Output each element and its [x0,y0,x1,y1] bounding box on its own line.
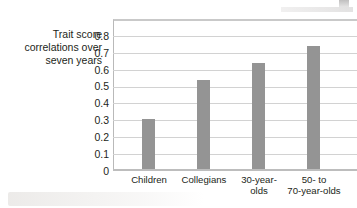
bar-collegians [197,80,210,171]
y-tick-label-0.5: 0.5 [85,81,109,92]
gridline-0.5 [113,87,357,88]
y-tick-label-0: 0 [85,166,109,177]
bar-chart-figure: Trait score correlations over seven year… [0,0,357,208]
plot-area [113,19,357,171]
gridline-0.4 [113,103,357,104]
gridline-0.7 [113,53,357,54]
bar-children [142,119,155,171]
y-tick-label-0.2: 0.2 [85,132,109,143]
scan-artifact-top-right [339,0,349,12]
scan-artifact-top-band [281,7,353,12]
bar-50-to-70-year-olds [307,46,320,171]
y-tick-label-0.4: 0.4 [85,98,109,109]
x-axis-tick-labels: Children Collegians 30-year- olds 50- to… [113,174,357,206]
bar-30-year-olds [252,63,265,171]
y-tick-label-0.1: 0.1 [85,149,109,160]
y-axis-tick-labels: 0.8 0.7 0.6 0.5 0.4 0.3 0.2 0.1 0 [84,19,109,171]
x-axis-baseline [113,169,357,171]
y-tick-label-0.3: 0.3 [85,115,109,126]
x-label-50-to-70-year-olds: 50- to 70-year-olds [274,174,354,197]
y-tick-label-0.6: 0.6 [85,65,109,76]
gridline-0.8 [113,36,357,37]
gridline-0.6 [113,70,357,71]
y-tick-label-0.8: 0.8 [85,31,109,42]
y-tick-label-0.7: 0.7 [85,48,109,59]
